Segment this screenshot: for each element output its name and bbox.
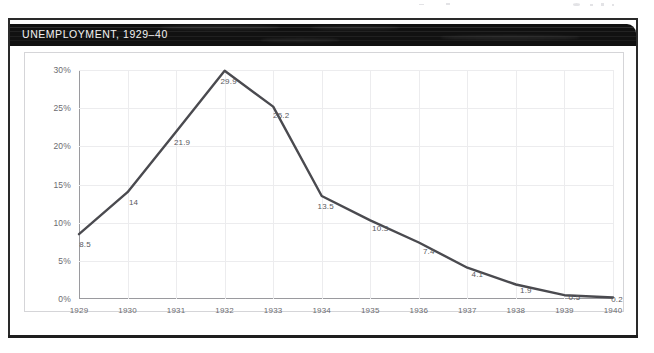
chart-container: 0%5%10%15%20%25%30% 19291930193119321933… (24, 52, 624, 312)
x-axis-tick-label: 1932 (215, 306, 234, 315)
y-axis-tick-label: 20% (53, 141, 71, 151)
data-point-label: 25.2 (273, 111, 289, 120)
y-axis-tick-label: 25% (53, 103, 71, 113)
unemployment-line-series (79, 70, 613, 299)
x-axis-tick-label: 1930 (118, 306, 137, 315)
x-axis-tick-label: 1938 (507, 306, 526, 315)
chart-title-bar: UNEMPLOYMENT, 1929–40 (10, 24, 636, 46)
x-axis-tick-label: 1934 (312, 306, 331, 315)
page-title: UNEMPLOYMENT, 1929–40 (22, 28, 168, 40)
y-axis-tick-label: 10% (53, 218, 71, 228)
data-point-label: 14 (129, 198, 138, 207)
x-axis-tick-label: 1936 (410, 306, 429, 315)
x-axis-tick-label: 1940 (604, 306, 623, 315)
data-point-label: 21.9 (174, 138, 190, 147)
x-axis-tick-label: 1939 (555, 306, 574, 315)
data-point-label: 10.3 (372, 224, 388, 233)
y-axis-tick-label: 15% (53, 180, 71, 190)
x-axis-tick-label: 1931 (167, 306, 186, 315)
data-point-label: 4.1 (471, 270, 483, 279)
plot-area: 0%5%10%15%20%25%30% 19291930193119321933… (79, 70, 613, 299)
data-point-label: 29.9 (220, 77, 236, 86)
gridline-vertical (613, 70, 614, 299)
data-point-label: 0.2 (611, 295, 623, 304)
y-axis-tick-label: 5% (58, 256, 71, 266)
x-axis-tick-label: 1935 (361, 306, 380, 315)
data-point-label: 13.5 (318, 202, 334, 211)
x-axis-tick-label: 1937 (458, 306, 477, 315)
data-point-label: 7.4 (423, 247, 435, 256)
scan-bleed-artifacts (0, 0, 654, 16)
y-axis-tick-label: 0% (58, 294, 71, 304)
data-point-label: 8.5 (79, 240, 91, 249)
x-axis-tick-label: 1929 (70, 306, 89, 315)
data-point-label: 0.5 (569, 293, 581, 302)
y-axis-tick-label: 30% (53, 65, 71, 75)
data-point-label: 1.9 (520, 286, 532, 295)
x-axis-tick-label: 1933 (264, 306, 283, 315)
